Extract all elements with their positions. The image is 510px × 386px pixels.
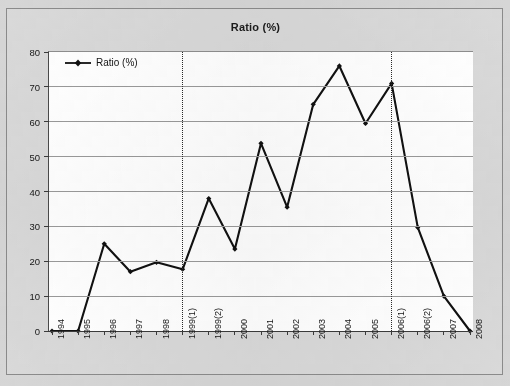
x-axis-tick-label: 2001 [265,319,275,339]
x-axis-tick-mark [339,331,340,335]
x-axis-tick-mark [104,331,105,335]
y-axis-tick-label: 40 [10,186,40,197]
legend-line-marker-icon [65,58,91,68]
x-axis-tick-mark [234,331,235,335]
y-axis-tick-mark [44,191,49,192]
y-axis-tick-label: 70 [10,81,40,92]
x-axis-tick-mark [470,331,471,335]
chart-screenshot: Ratio (%) 010203040506070801994199519961… [0,0,510,386]
x-axis-tick-mark [208,331,209,335]
reference-line-1999(1) [182,52,183,331]
gridline [49,296,473,297]
reference-line-2006(1) [391,52,392,331]
y-axis-tick-label: 30 [10,221,40,232]
y-axis-tick-label: 60 [10,116,40,127]
x-axis-tick-label: 2003 [317,319,327,339]
x-axis-tick-mark [391,331,392,335]
gridline [49,226,473,227]
x-axis-tick-mark [417,331,418,335]
x-axis-tick-label: 1999(2) [213,308,223,339]
gridline [49,121,473,122]
plot-area: 0102030405060708019941995199619971998199… [48,51,473,331]
x-axis-tick-label: 1998 [161,319,171,339]
y-axis-tick-label: 80 [10,47,40,58]
x-axis-tick-mark [443,331,444,335]
y-axis-tick-mark [44,52,49,53]
gridline [49,86,473,87]
series-line-ratio [52,66,470,331]
y-axis-tick-mark [44,86,49,87]
x-axis-tick-mark [365,331,366,335]
x-axis-tick-label: 1996 [108,319,118,339]
x-axis-tick-label: 2006(1) [396,308,406,339]
chart-legend: Ratio (%) [65,57,138,68]
x-axis-tick-label: 2005 [370,319,380,339]
x-axis-tick-mark [78,331,79,335]
x-axis-tick-label: 2007 [448,319,458,339]
gridline [49,156,473,157]
x-axis-tick-mark [130,331,131,335]
legend-label-ratio: Ratio (%) [96,57,138,68]
x-axis-tick-label: 2006(2) [422,308,432,339]
y-axis-tick-mark [44,331,49,332]
x-axis-tick-mark [182,331,183,335]
y-axis-tick-mark [44,296,49,297]
gridline [49,191,473,192]
y-axis-tick-mark [44,156,49,157]
x-axis-tick-mark [52,331,53,335]
y-axis-tick-label: 0 [10,326,40,337]
gridline [49,261,473,262]
x-axis-tick-label: 2008 [474,319,484,339]
x-axis-tick-mark [261,331,262,335]
y-axis-tick-label: 10 [10,291,40,302]
y-axis-tick-label: 20 [10,256,40,267]
chart-title: Ratio (%) [7,21,504,33]
x-axis-tick-label: 2002 [291,319,301,339]
x-axis-tick-label: 2004 [343,319,353,339]
x-axis-tick-mark [156,331,157,335]
y-axis-tick-mark [44,121,49,122]
x-axis-tick-label: 1999(1) [187,308,197,339]
y-axis-tick-label: 50 [10,151,40,162]
chart-frame: Ratio (%) 010203040506070801994199519961… [6,8,503,375]
x-axis-tick-label: 2000 [239,319,249,339]
x-axis-tick-label: 1995 [82,319,92,339]
y-axis-tick-mark [44,261,49,262]
x-axis-tick-mark [287,331,288,335]
x-axis-tick-label: 1997 [134,319,144,339]
x-axis-tick-mark [313,331,314,335]
x-axis-tick-label: 1994 [56,319,66,339]
y-axis-tick-mark [44,226,49,227]
